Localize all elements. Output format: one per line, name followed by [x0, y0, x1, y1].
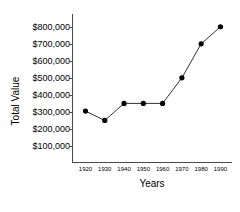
y-axis-tick-label: $100,000: [22, 141, 70, 151]
y-axis-tick-label: $600,000: [22, 56, 70, 66]
plot-area: [72, 14, 232, 163]
data-point: [160, 101, 165, 106]
y-axis-tick-label-group: $800,000$700,000$600,000$500,000$400,000…: [22, 14, 70, 164]
y-axis-tick-label: $500,000: [22, 73, 70, 83]
x-axis-tick-label: 1980: [194, 166, 207, 172]
data-point: [218, 24, 223, 29]
data-point: [199, 41, 204, 46]
y-axis-tick-mark: [69, 78, 73, 79]
y-axis-tick-label: $400,000: [22, 90, 70, 100]
x-axis-tick-label: 1970: [175, 166, 188, 172]
data-series-layer: [72, 14, 232, 163]
x-axis-title: Years: [72, 178, 232, 189]
x-axis-tick-label: 1960: [156, 166, 169, 172]
x-axis-tick-label-group: 19201930194019501960197019801990: [72, 166, 240, 178]
y-axis-tick-label: $300,000: [22, 107, 70, 117]
line-chart: Total Value $800,000$700,000$600,000$500…: [0, 0, 240, 212]
y-axis-tick-mark: [69, 61, 73, 62]
data-point: [179, 75, 184, 80]
series-line: [85, 27, 220, 121]
data-point: [83, 108, 88, 113]
data-point: [121, 101, 126, 106]
y-axis-tick-mark: [69, 112, 73, 113]
y-axis-tick-mark: [69, 44, 73, 45]
x-axis-tick-label: 1940: [117, 166, 130, 172]
x-axis-tick-label: 1920: [79, 166, 92, 172]
y-axis-tick-label: $800,000: [22, 22, 70, 32]
x-axis-tick-label: 1950: [137, 166, 150, 172]
y-axis-tick-mark: [69, 95, 73, 96]
x-axis-tick-label: 1990: [214, 166, 227, 172]
y-axis-tick-mark: [69, 146, 73, 147]
x-axis-tick-label: 1930: [98, 166, 111, 172]
y-axis-tick-label: $700,000: [22, 39, 70, 49]
y-axis-tick-label: $200,000: [22, 124, 70, 134]
y-axis-tick-mark: [69, 27, 73, 28]
y-axis-tick-mark: [69, 129, 73, 130]
data-point: [102, 118, 107, 123]
data-point: [141, 101, 146, 106]
